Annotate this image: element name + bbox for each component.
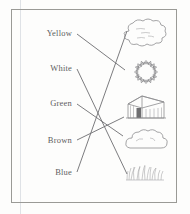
- label-brown[interactable]: Brown: [48, 135, 72, 145]
- labels-layer: Yellow White Green Brown Blue: [0, 0, 190, 214]
- label-green[interactable]: Green: [50, 98, 72, 108]
- worksheet-page: Yellow White Green Brown Blue: [0, 0, 190, 214]
- label-yellow[interactable]: Yellow: [47, 28, 72, 38]
- label-blue[interactable]: Blue: [55, 167, 72, 177]
- label-white[interactable]: White: [50, 63, 72, 73]
